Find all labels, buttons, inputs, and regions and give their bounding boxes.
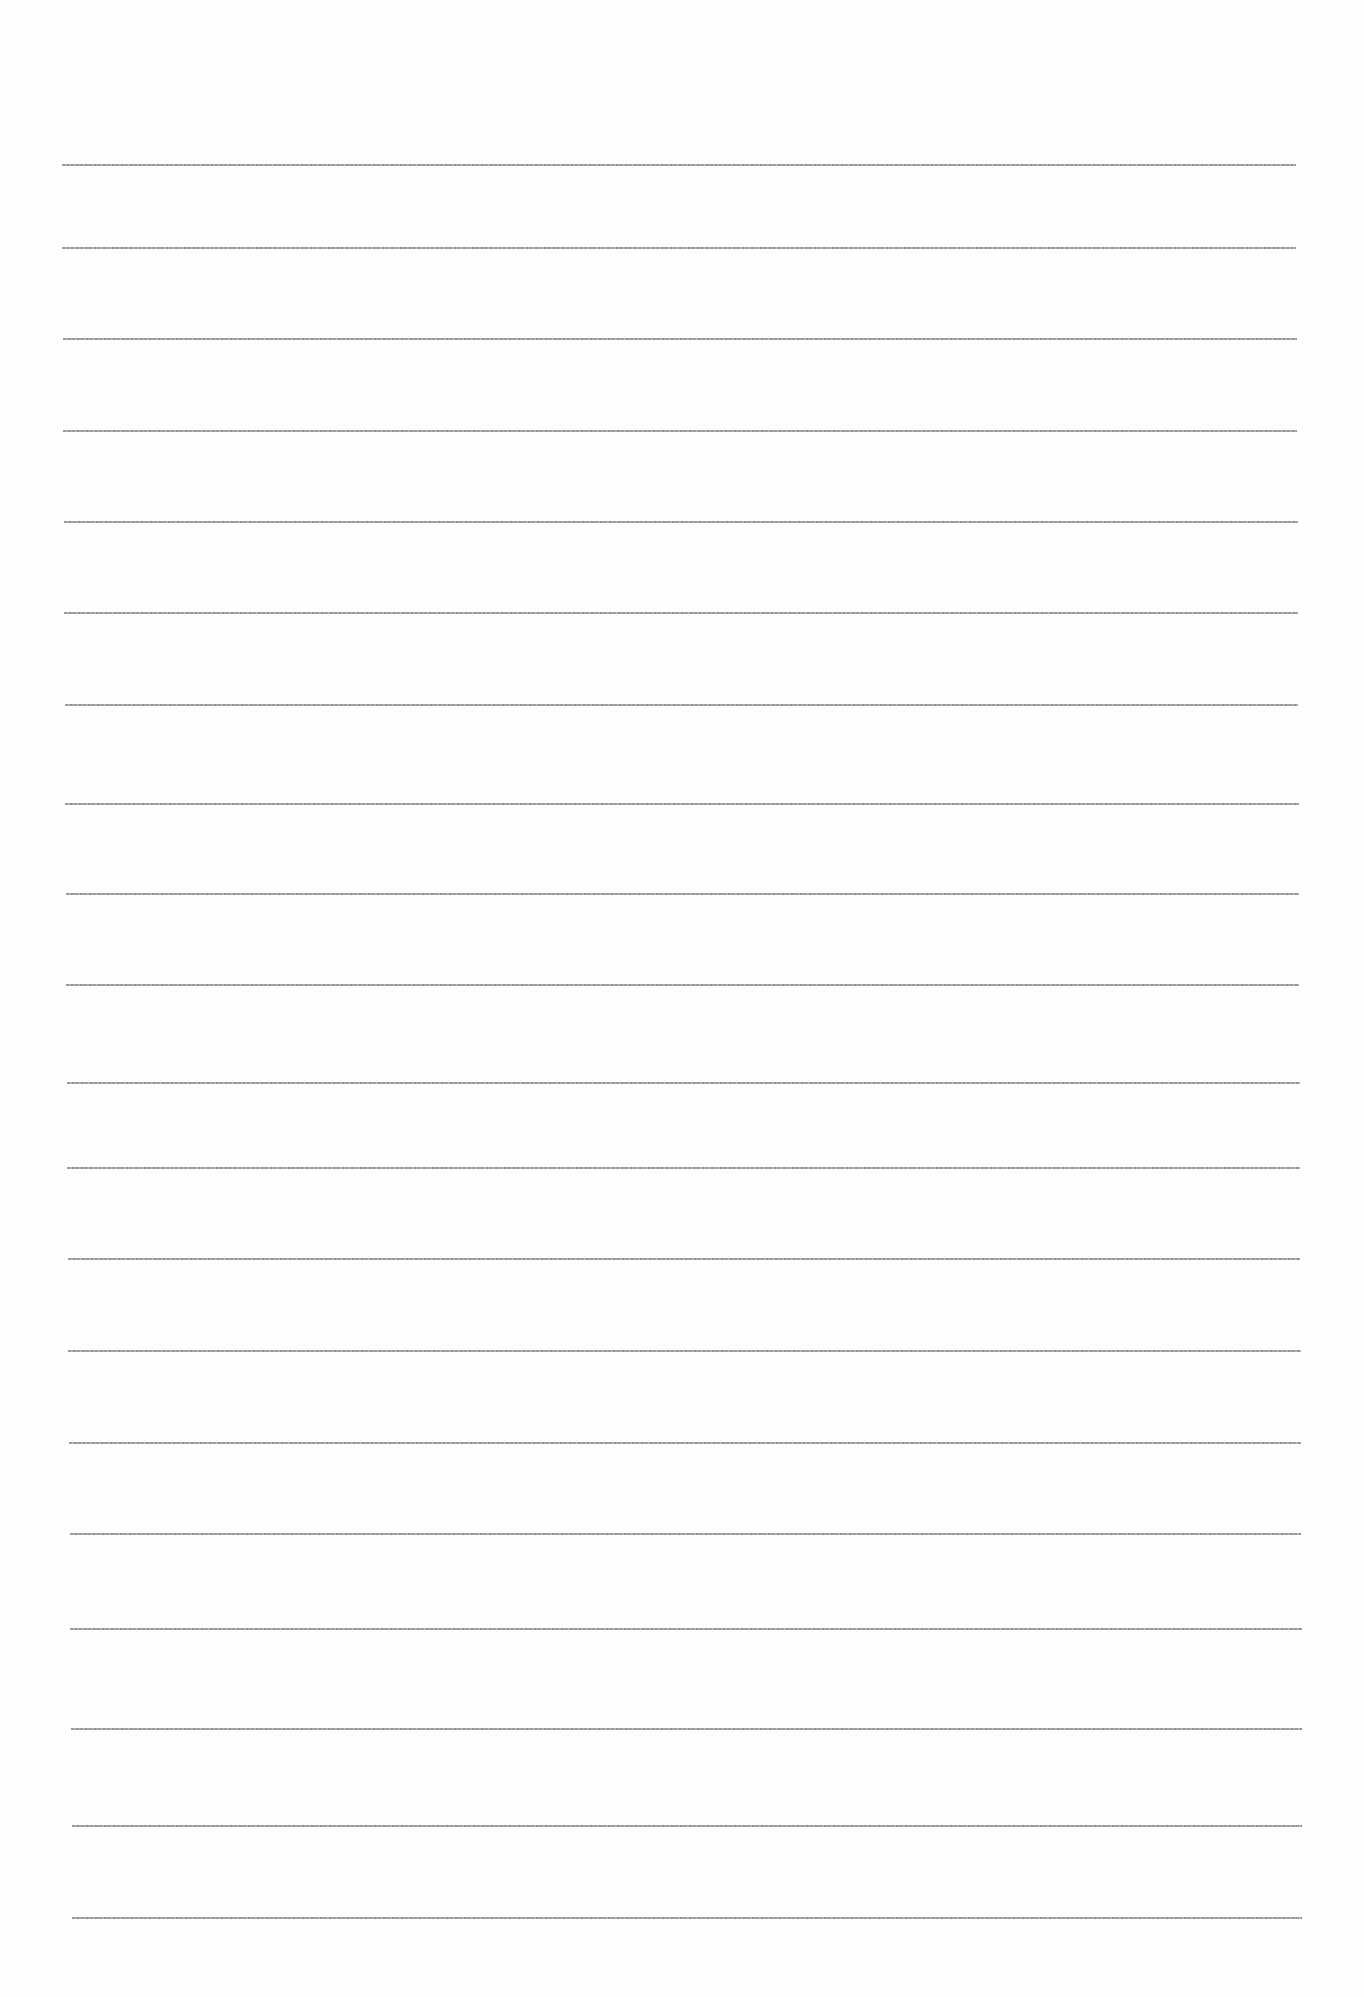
ruled-line bbox=[67, 1167, 1300, 1169]
ruled-line bbox=[63, 338, 1297, 340]
ruled-line bbox=[72, 1917, 1302, 1919]
ruled-line bbox=[64, 612, 1298, 614]
ruled-line bbox=[63, 430, 1297, 432]
ruled-line bbox=[68, 1350, 1301, 1352]
ruled-line bbox=[64, 521, 1298, 523]
ruled-line bbox=[71, 1728, 1302, 1730]
ruled-line bbox=[68, 1258, 1300, 1260]
ruled-line bbox=[70, 1533, 1301, 1535]
ruled-line bbox=[66, 893, 1299, 895]
ruled-line bbox=[65, 704, 1298, 706]
ruled-line bbox=[66, 984, 1299, 986]
ruled-line bbox=[72, 1825, 1302, 1827]
ruled-paper-page bbox=[0, 0, 1364, 1997]
ruled-line bbox=[62, 164, 1296, 166]
ruled-line bbox=[65, 803, 1299, 805]
ruled-line bbox=[69, 1442, 1301, 1444]
ruled-line bbox=[70, 1628, 1302, 1630]
ruled-line bbox=[62, 247, 1296, 249]
ruled-line bbox=[67, 1082, 1300, 1084]
